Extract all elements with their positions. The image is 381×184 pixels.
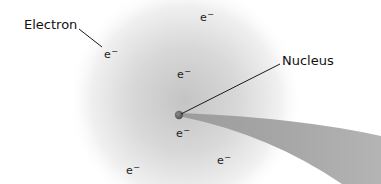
atom-diagram: Electron Nucleus e− e− e− e− e− e− (0, 0, 381, 184)
electron-letter: e (104, 48, 111, 61)
electron-letter: e (176, 127, 183, 140)
electron-symbol: e− (177, 68, 191, 80)
electron-symbol: e− (217, 154, 231, 166)
nucleus-label: Nucleus (282, 54, 334, 67)
electron-charge: − (111, 47, 118, 56)
electron-charge: − (183, 126, 190, 135)
electron-letter: e (217, 154, 224, 167)
electron-letter: e (126, 164, 133, 177)
electron-label: Electron (24, 18, 77, 31)
electron-symbol: e− (126, 164, 140, 176)
electron-symbol: e− (104, 48, 118, 60)
electron-letter: e (177, 68, 184, 81)
electron-charge: − (207, 10, 214, 19)
electron-charge: − (224, 153, 231, 162)
electron-cloud (67, 0, 303, 184)
electron-symbol: e− (176, 127, 190, 139)
nucleus-dot (175, 111, 183, 119)
electron-symbol: e− (200, 11, 214, 23)
electron-letter: e (200, 11, 207, 24)
electron-charge: − (133, 163, 140, 172)
electron-charge: − (184, 67, 191, 76)
